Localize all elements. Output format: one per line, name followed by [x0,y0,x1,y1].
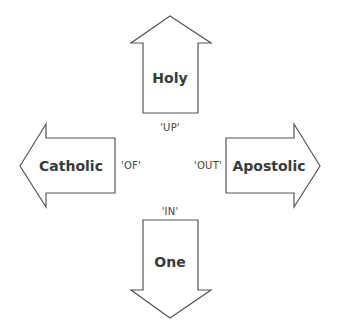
apostolic-label: Apostolic [232,158,305,174]
up-direction-label: 'UP' [160,122,180,133]
one-label: One [154,254,185,270]
holy-label: Holy [152,70,187,86]
out-direction-label: 'OUT' [194,160,222,171]
in-direction-label: 'IN' [162,206,179,217]
up-arrow-shape [131,16,211,113]
catholic-label: Catholic [39,158,103,174]
of-direction-label: 'OF' [121,160,141,171]
